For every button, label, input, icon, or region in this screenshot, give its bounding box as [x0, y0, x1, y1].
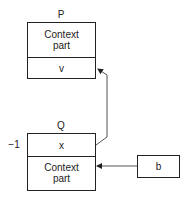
node-q-side-label: −1 [5, 139, 23, 150]
node-b-label: b [138, 156, 179, 177]
node-q: x Context part [27, 133, 96, 191]
node-q-title: Q [27, 120, 95, 131]
node-q-context-part: Context part [28, 157, 95, 189]
node-p-title: P [27, 9, 95, 20]
node-q-x-cell: x [28, 134, 95, 156]
node-p: Context part v [27, 22, 96, 79]
node-b: b [137, 155, 180, 178]
node-p-context-part: Context part [28, 23, 95, 57]
edge-x-to-v [96, 69, 107, 145]
node-p-v-cell: v [28, 58, 95, 78]
